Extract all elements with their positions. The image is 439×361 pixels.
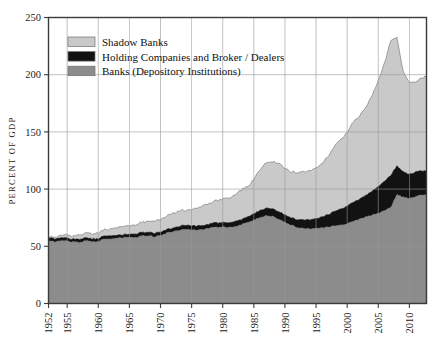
legend-label: Banks (Depository Institutions) xyxy=(102,65,241,78)
y-tick-label: 150 xyxy=(25,127,41,138)
x-tick-label: 1990 xyxy=(280,313,291,334)
x-tick-label: 2005 xyxy=(373,313,384,334)
x-tick-label: 1980 xyxy=(218,313,229,334)
y-tick-label: 0 xyxy=(36,298,41,309)
y-axis-title: PERCENT OF GDP xyxy=(7,116,17,204)
legend-swatch xyxy=(68,66,95,76)
y-tick-label: 200 xyxy=(25,69,41,80)
legend-label: Shadow Banks xyxy=(102,36,168,48)
x-tick-label: 2010 xyxy=(404,313,415,334)
x-tick-label: 1965 xyxy=(124,313,135,334)
x-tick-label: 1985 xyxy=(249,313,260,334)
y-tick-label: 50 xyxy=(31,241,42,252)
x-tick-label: 1970 xyxy=(155,313,166,334)
x-tick-label: 1960 xyxy=(93,313,104,334)
x-tick-label: 1955 xyxy=(62,313,73,334)
legend-swatch xyxy=(68,52,95,62)
x-tick-label: 2000 xyxy=(342,313,353,334)
stacked-area-chart: 050100150200250PERCENT OF GDP19521955196… xyxy=(0,0,439,361)
legend-swatch xyxy=(68,37,95,47)
x-tick-label: 1975 xyxy=(186,313,197,334)
chart-figure: 050100150200250PERCENT OF GDP19521955196… xyxy=(0,0,439,361)
x-tick-label: 1952 xyxy=(43,313,54,334)
y-tick-label: 250 xyxy=(25,12,41,23)
x-tick-label: 1995 xyxy=(311,313,322,334)
y-tick-label: 100 xyxy=(25,184,41,195)
legend-label: Holding Companies and Broker / Dealers xyxy=(102,51,284,63)
